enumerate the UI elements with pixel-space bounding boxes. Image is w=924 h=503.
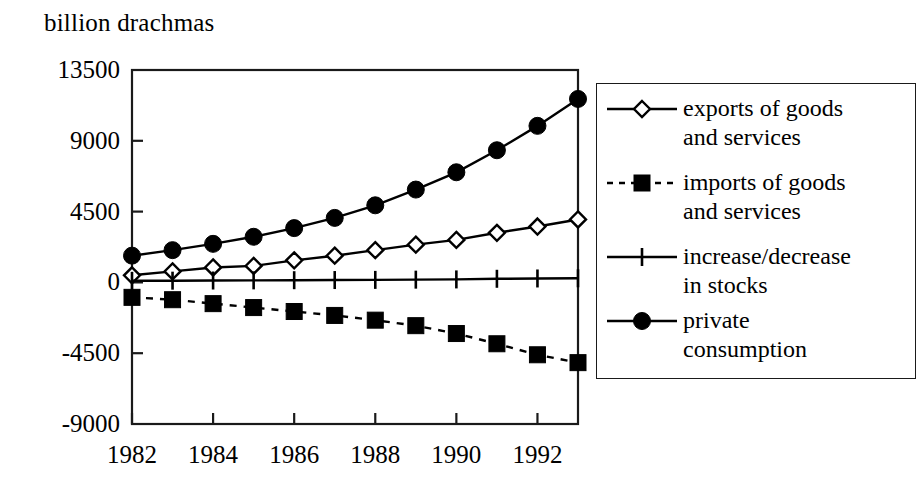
legend-item-4[interactable]: private consumption [605, 306, 911, 364]
legend-marker-open-diamond-icon [605, 94, 679, 124]
data-point-marker [529, 219, 545, 235]
legend-marker-plus-icon [605, 242, 679, 272]
data-point-marker [205, 235, 222, 252]
legend-label: exports of goods and services [679, 94, 843, 152]
legend-item-1[interactable]: exports of goods and services [605, 94, 911, 152]
data-point-marker [165, 292, 181, 308]
data-point-marker [448, 232, 464, 248]
data-point-marker [448, 326, 464, 342]
data-point-marker [246, 300, 262, 316]
x-axis-tick-label: 1988 [330, 442, 420, 467]
data-point-marker [570, 211, 586, 227]
legend-label: imports of goods and services [679, 168, 846, 226]
data-point-marker [407, 181, 424, 198]
data-point-marker [408, 318, 424, 334]
data-point-marker [164, 242, 181, 259]
data-point-marker [489, 336, 505, 352]
data-point-marker [286, 220, 303, 237]
y-axis-tick-label: 0 [10, 269, 120, 294]
series-line [132, 278, 578, 281]
legend-marker-filled-circle-icon [605, 306, 679, 336]
data-point-marker [570, 355, 586, 371]
data-point-marker [367, 197, 384, 214]
data-point-marker [327, 248, 343, 264]
data-point-marker [488, 142, 505, 159]
legend-marker-filled-square-icon [605, 168, 679, 198]
series-2 [124, 289, 586, 370]
data-point-marker [327, 307, 343, 323]
legend: exports of goods and servicesimports of … [596, 83, 916, 379]
data-point-marker [448, 164, 465, 181]
series-4 [124, 90, 587, 264]
legend-marker-glyph [634, 101, 650, 117]
data-point-marker [570, 90, 587, 107]
x-axis-tick-label: 1986 [249, 442, 339, 467]
legend-item-3[interactable]: increase/decrease in stocks [605, 242, 911, 300]
data-point-marker [489, 225, 505, 241]
series-line [132, 220, 578, 276]
data-point-marker [286, 252, 302, 268]
y-axis-tick-label: 13500 [10, 57, 120, 82]
data-point-marker [367, 242, 383, 258]
data-point-marker [245, 228, 262, 245]
data-point-marker [326, 209, 343, 226]
chart-figure: billion drachmas 13500900045000-4500-900… [0, 0, 924, 503]
y-axis-tick-label: -9000 [10, 411, 120, 436]
data-point-marker [286, 304, 302, 320]
legend-marker-glyph [634, 175, 650, 191]
data-point-marker [529, 117, 546, 134]
legend-marker-glyph [634, 313, 651, 330]
y-axis-tick-label: 9000 [10, 128, 120, 153]
legend-item-2[interactable]: imports of goods and services [605, 168, 911, 226]
data-point-marker [529, 347, 545, 363]
data-point-marker [205, 296, 221, 312]
legend-label: increase/decrease in stocks [679, 242, 851, 300]
data-point-marker [367, 312, 383, 328]
data-point-marker [124, 289, 140, 305]
series-line [132, 99, 578, 256]
legend-label: private consumption [679, 306, 807, 364]
x-axis-tick-label: 1984 [168, 442, 258, 467]
x-axis-tick-label: 1982 [87, 442, 177, 467]
x-axis-tick-label: 1992 [492, 442, 582, 467]
series-line [132, 297, 578, 362]
x-axis-tick-label: 1990 [411, 442, 501, 467]
data-point-marker [124, 247, 141, 264]
series-3 [132, 269, 578, 290]
y-axis-tick-label: -4500 [10, 340, 120, 365]
data-point-marker [408, 237, 424, 253]
y-axis-tick-label: 4500 [10, 199, 120, 224]
